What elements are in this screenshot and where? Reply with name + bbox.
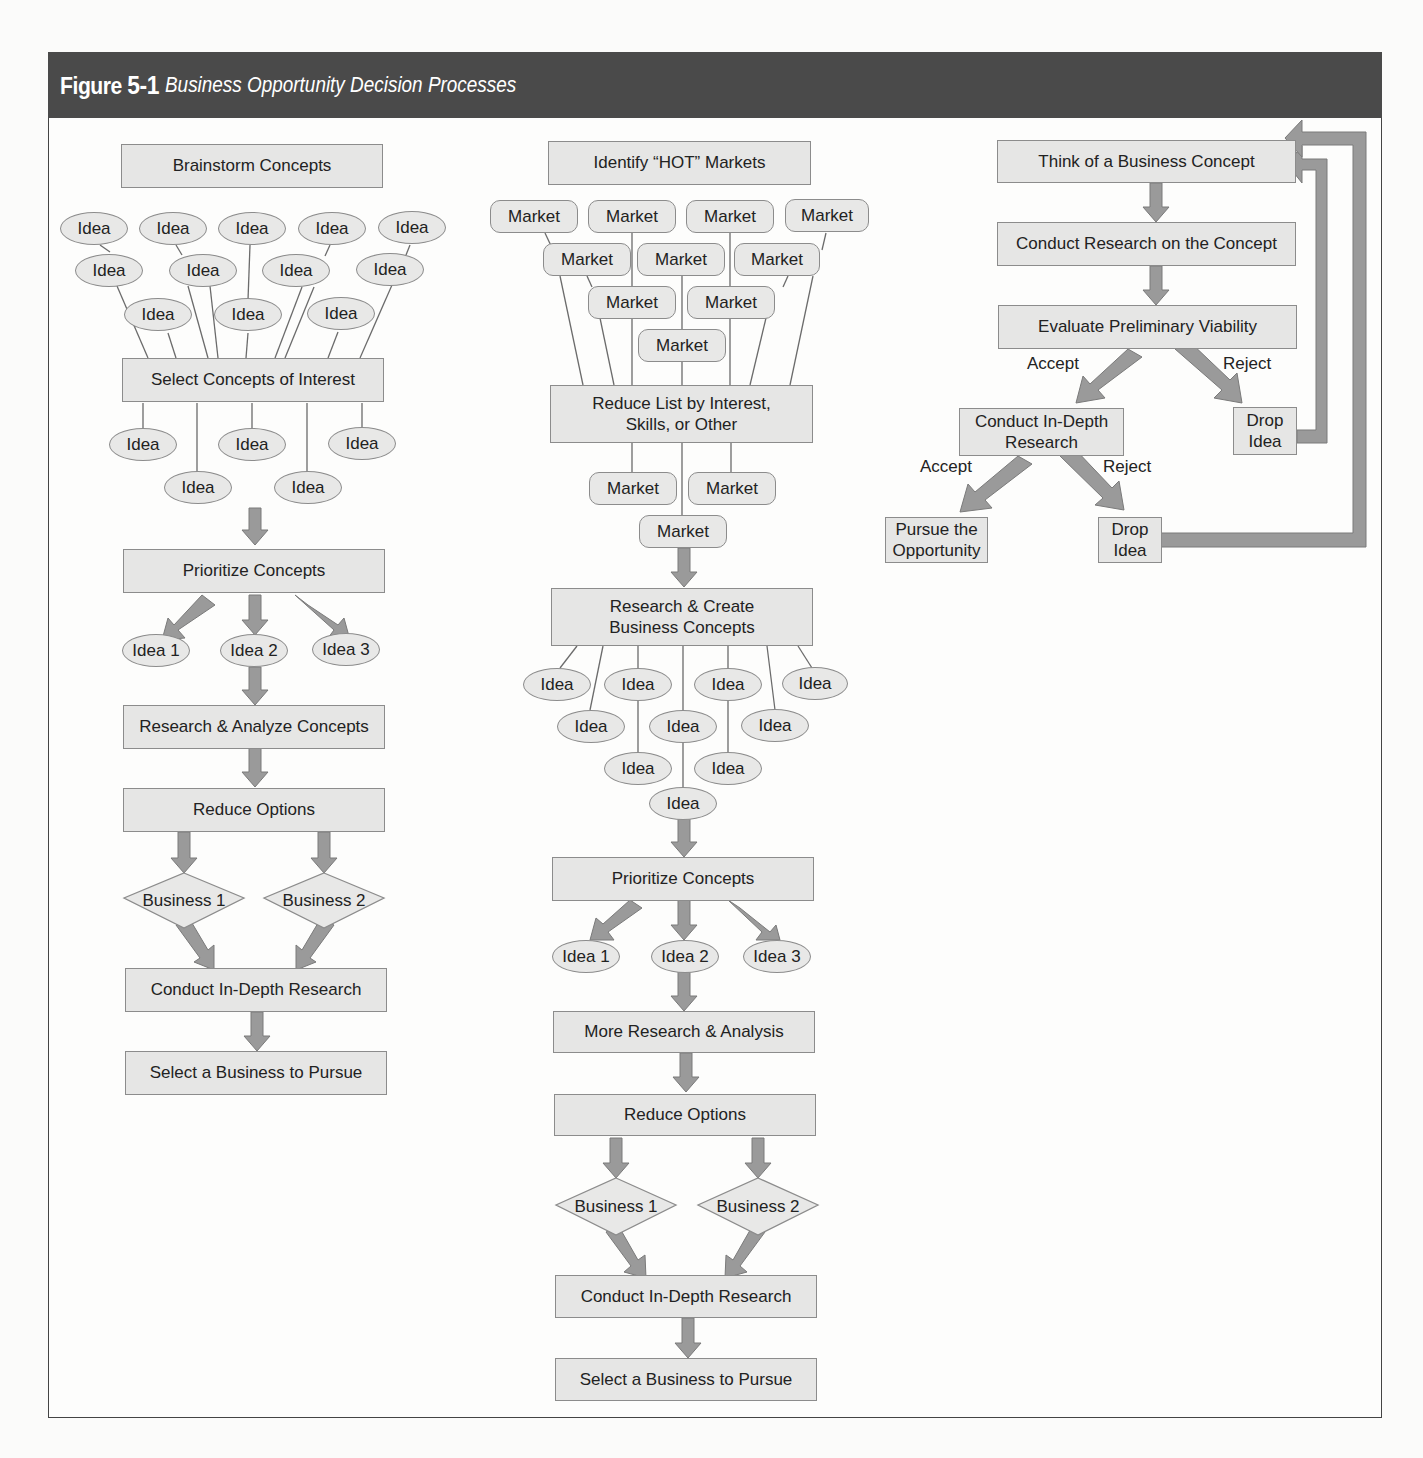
business-diamond: Business 2 bbox=[264, 873, 384, 928]
market-pill: Market bbox=[639, 515, 727, 548]
idea-oval: Idea bbox=[604, 668, 672, 701]
idea-oval: Idea bbox=[523, 668, 591, 701]
node-more-research: More Research & Analysis bbox=[553, 1011, 815, 1053]
node-pursue-opportunity: Pursue the Opportunity bbox=[885, 517, 988, 563]
node-select-business-2: Select a Business to Pursue bbox=[555, 1358, 817, 1401]
node-drop-idea-2: Drop Idea bbox=[1098, 517, 1162, 563]
node-evaluate-viability: Evaluate Preliminary Viability bbox=[998, 305, 1297, 349]
accept-label: Accept bbox=[1027, 354, 1079, 374]
ranked-idea-oval: Idea 1 bbox=[552, 940, 620, 973]
idea-oval: Idea bbox=[75, 254, 143, 287]
market-pill: Market bbox=[589, 472, 677, 505]
node-prioritize-concepts-2: Prioritize Concepts bbox=[552, 857, 814, 901]
idea-oval: Idea bbox=[214, 298, 282, 331]
node-drop-idea-1: Drop Idea bbox=[1233, 407, 1297, 455]
idea-oval: Idea bbox=[782, 667, 848, 700]
node-prioritize-concepts: Prioritize Concepts bbox=[123, 549, 385, 593]
market-pill: Market bbox=[734, 243, 820, 276]
idea-oval: Idea bbox=[328, 427, 396, 460]
node-think-concept: Think of a Business Concept bbox=[997, 140, 1296, 183]
node-research-concept: Conduct Research on the Concept bbox=[997, 222, 1296, 266]
market-pill: Market bbox=[588, 286, 676, 319]
node-in-depth-research-2: Conduct In-Depth Research bbox=[555, 1275, 817, 1318]
ranked-idea-oval: Idea 3 bbox=[743, 940, 811, 973]
idea-oval: Idea bbox=[169, 254, 237, 287]
ranked-idea-oval: Idea 3 bbox=[312, 633, 380, 666]
idea-oval: Idea bbox=[378, 211, 446, 244]
node-reduce-list: Reduce List by Interest, Skills, or Othe… bbox=[550, 385, 813, 443]
idea-oval: Idea bbox=[60, 212, 128, 245]
market-pill: Market bbox=[785, 199, 869, 232]
node-research-analyze: Research & Analyze Concepts bbox=[123, 705, 385, 749]
market-pill: Market bbox=[588, 200, 676, 233]
market-pill: Market bbox=[490, 200, 578, 233]
idea-oval: Idea bbox=[649, 787, 717, 820]
node-in-depth-research: Conduct In-Depth Research bbox=[125, 968, 387, 1012]
idea-oval: Idea bbox=[262, 254, 330, 287]
node-reduce-options-2: Reduce Options bbox=[554, 1094, 816, 1136]
business-diamond: Business 1 bbox=[556, 1178, 676, 1235]
node-reduce-options: Reduce Options bbox=[123, 788, 385, 832]
idea-oval: Idea bbox=[218, 428, 286, 461]
node-identify-hot-markets: Identify “HOT” Markets bbox=[548, 141, 811, 185]
ranked-idea-oval: Idea 2 bbox=[220, 634, 288, 667]
idea-oval: Idea bbox=[604, 752, 672, 785]
market-pill: Market bbox=[638, 329, 726, 362]
accept-label: Accept bbox=[920, 457, 972, 477]
business-diamond: Business 2 bbox=[698, 1178, 818, 1235]
ranked-idea-oval: Idea 2 bbox=[651, 940, 719, 973]
idea-oval: Idea bbox=[124, 298, 192, 331]
market-pill: Market bbox=[687, 286, 775, 319]
node-research-create: Research & Create Business Concepts bbox=[551, 588, 813, 646]
idea-oval: Idea bbox=[741, 709, 809, 742]
node-select-concepts: Select Concepts of Interest bbox=[122, 358, 384, 402]
business-diamond: Business 1 bbox=[124, 873, 244, 928]
idea-oval: Idea bbox=[298, 212, 366, 245]
idea-oval: Idea bbox=[218, 212, 286, 245]
idea-oval: Idea bbox=[139, 212, 207, 245]
ranked-idea-oval: Idea 1 bbox=[122, 634, 190, 667]
node-in-depth-research-3: Conduct In-Depth Research bbox=[959, 408, 1124, 456]
idea-oval: Idea bbox=[109, 428, 177, 461]
node-brainstorm-concepts: Brainstorm Concepts bbox=[121, 144, 383, 188]
market-pill: Market bbox=[686, 200, 774, 233]
idea-oval: Idea bbox=[557, 710, 625, 743]
node-select-business: Select a Business to Pursue bbox=[125, 1051, 387, 1095]
market-pill: Market bbox=[543, 243, 631, 276]
idea-oval: Idea bbox=[694, 752, 762, 785]
reject-label: Reject bbox=[1103, 457, 1151, 477]
reject-label: Reject bbox=[1223, 354, 1271, 374]
market-pill: Market bbox=[688, 472, 776, 505]
idea-oval: Idea bbox=[307, 297, 375, 330]
idea-oval: Idea bbox=[274, 471, 342, 504]
market-pill: Market bbox=[637, 243, 725, 276]
idea-oval: Idea bbox=[649, 710, 717, 743]
idea-oval: Idea bbox=[164, 471, 232, 504]
idea-oval: Idea bbox=[356, 253, 424, 286]
idea-oval: Idea bbox=[694, 668, 762, 701]
